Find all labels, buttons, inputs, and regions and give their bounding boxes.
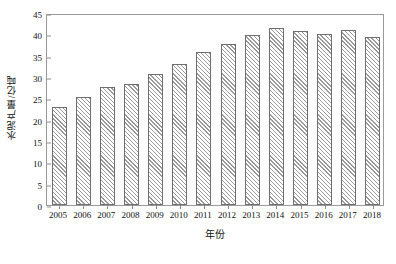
plot-area: 051015202530354045 [46, 14, 384, 206]
bar-slot [196, 15, 211, 205]
x-axis-tick-labels: 2005200620072008200920102011201220132014… [46, 208, 384, 224]
x-axis-tick-label: 2010 [167, 208, 191, 222]
bar[interactable] [245, 35, 260, 205]
y-axis-tick-label: 35 [33, 53, 47, 62]
y-axis-title: 水泥产量/亿吨 [2, 0, 22, 214]
bar-chart: 水泥产量/亿吨 051015202530354045 2005200620072… [0, 0, 396, 264]
bar-slot [124, 15, 139, 205]
bar[interactable] [196, 52, 211, 205]
x-axis-title: 年份 [46, 226, 384, 241]
y-axis-tick-label: 25 [33, 96, 47, 105]
y-axis-tick-mark [47, 15, 51, 16]
x-axis-tick-label: 2011 [191, 208, 215, 222]
x-axis-tick-label: 2009 [143, 208, 167, 222]
y-axis-tick-mark [47, 100, 51, 101]
bar[interactable] [293, 31, 308, 205]
bar-slot [365, 15, 380, 205]
y-axis-tick-mark [47, 36, 51, 37]
bar[interactable] [317, 34, 332, 205]
x-axis-tick-label: 2016 [312, 208, 336, 222]
y-axis-tick-label: 20 [33, 117, 47, 126]
bar-slot [76, 15, 91, 205]
x-axis-tick-label: 2017 [336, 208, 360, 222]
x-axis-tick-label: 2008 [118, 208, 142, 222]
bar-slot [221, 15, 236, 205]
bar[interactable] [76, 97, 91, 205]
y-axis-tick-mark [47, 79, 51, 80]
y-axis-title-text: 水泥产量/亿吨 [5, 74, 19, 140]
y-axis-tick-mark [47, 57, 51, 58]
y-axis-tick-mark [47, 121, 51, 122]
bar[interactable] [52, 107, 67, 205]
bars-layer [47, 15, 383, 205]
bar[interactable] [269, 28, 284, 205]
bar-slot [172, 15, 187, 205]
y-axis-tick-mark [47, 143, 51, 144]
bar-slot [269, 15, 284, 205]
y-axis-tick-label: 40 [33, 32, 47, 41]
x-axis-tick-label: 2015 [287, 208, 311, 222]
y-axis-tick-label: 15 [33, 139, 47, 148]
bar-slot [317, 15, 332, 205]
y-axis-tick-mark [47, 164, 51, 165]
y-axis-tick-label: 5 [38, 181, 48, 190]
bar[interactable] [124, 84, 139, 205]
bar-slot [148, 15, 163, 205]
bar-slot [52, 15, 67, 205]
bar[interactable] [100, 87, 115, 205]
y-axis-tick-mark [47, 185, 51, 186]
bar[interactable] [148, 74, 163, 205]
y-axis-tick-label: 30 [33, 75, 47, 84]
x-axis-tick-label: 2005 [46, 208, 70, 222]
bar[interactable] [172, 64, 187, 205]
x-axis-tick-label: 2018 [360, 208, 384, 222]
x-axis-tick-label: 2012 [215, 208, 239, 222]
x-axis-tick-label: 2007 [94, 208, 118, 222]
x-axis-tick-label: 2013 [239, 208, 263, 222]
bar-slot [341, 15, 356, 205]
bar-slot [293, 15, 308, 205]
bar-slot [245, 15, 260, 205]
y-axis-tick-label: 45 [33, 11, 47, 20]
bar[interactable] [365, 37, 380, 205]
y-axis-tick-label: 10 [33, 160, 47, 169]
bar[interactable] [341, 30, 356, 205]
bar[interactable] [221, 44, 236, 205]
bar-slot [100, 15, 115, 205]
x-axis-tick-label: 2014 [263, 208, 287, 222]
x-axis-tick-label: 2006 [70, 208, 94, 222]
